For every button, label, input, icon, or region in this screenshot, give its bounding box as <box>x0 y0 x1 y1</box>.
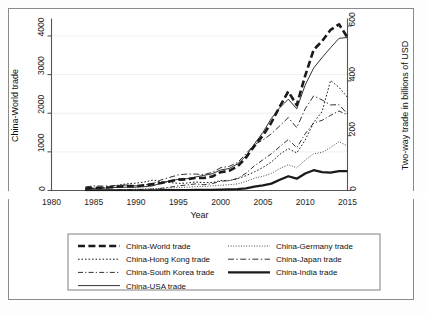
legend-label: China-South Korea trade <box>126 268 215 277</box>
legend-label: China-World trade <box>126 242 191 251</box>
legend-label: China-India trade <box>276 268 338 277</box>
line-chart: 0100020003000400002004006001980198519901… <box>0 0 427 315</box>
y2-tick-label: 200 <box>348 122 358 136</box>
axis-mask <box>0 191 427 199</box>
y-tick-label: 4000 <box>37 17 47 36</box>
y2-tick-label: 400 <box>348 67 358 81</box>
legend-label: China-Japan trade <box>276 255 342 264</box>
y2-tick-label: 600 <box>348 12 358 26</box>
right-axis-title: Two-way trade in billions of USD <box>400 40 410 170</box>
y-tick-label: 3000 <box>37 56 47 75</box>
legend-label: China-USA trade <box>126 282 187 291</box>
y-tick-label: 2000 <box>37 95 47 114</box>
legend-label: China-Germany trade <box>276 242 353 251</box>
y2-tick-label: 0 <box>348 186 358 191</box>
left-axis-title: China-World trade <box>10 69 20 142</box>
plot-area <box>52 21 348 191</box>
legend-label: China-Hong Kong trade <box>126 255 211 264</box>
y-tick-label: 0 <box>37 186 47 191</box>
y-tick-label: 1000 <box>37 133 47 152</box>
x-axis-title: Year <box>190 210 208 220</box>
chart-figure: 0100020003000400002004006001980198519901… <box>0 0 427 315</box>
